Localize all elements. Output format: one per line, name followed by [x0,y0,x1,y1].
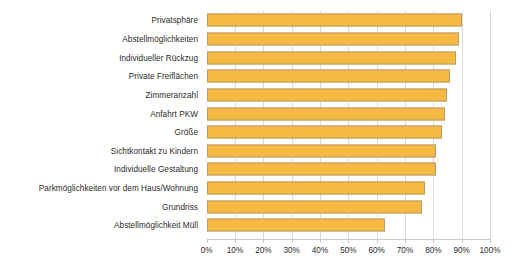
bar-category-label: Sichtkontakt zu Kindern [0,144,198,157]
x-axis-tick [207,239,208,243]
bar-category-label: Privatsphäre [0,14,198,27]
bar-category-label: Zimmeranzahl [0,88,198,101]
bar [207,219,385,232]
x-axis-tick-label: 60% [368,246,384,255]
bar-track [207,219,490,232]
bar [207,14,462,27]
bar-category-label: Anfahrt PKW [0,107,198,120]
bar [207,163,436,176]
x-axis-tick-label: 80% [425,246,441,255]
x-axis-tick [377,239,378,243]
x-axis-tick-label: 20% [255,246,271,255]
bar-category-label: Größe [0,126,198,139]
x-axis-tick [292,239,293,243]
x-axis-tick-label: 50% [340,246,356,255]
bar-row: Anfahrt PKW [0,104,523,123]
x-axis-tick-label: 40% [312,246,328,255]
x-axis-tick [348,239,349,243]
bar-row: Individuelle Gestaltung [0,160,523,179]
x-axis-tick [462,239,463,243]
bar-category-label: Abstellmöglichkeiten [0,32,198,45]
bar-row: Abstellmöglichkeit Müll [0,216,523,235]
bar-category-label: Individueller Rückzug [0,51,198,64]
x-axis-tick-label: 100% [480,246,501,255]
x-axis-tick-label: 30% [283,246,299,255]
bar-track [207,70,490,83]
bar [207,144,436,157]
bar-category-label: Private Freiflächen [0,70,198,83]
bar-rows: PrivatsphäreAbstellmöglichkeitenIndividu… [0,11,523,235]
bar [207,32,459,45]
bar [207,182,425,195]
bar-row: Abstellmöglichkeiten [0,30,523,49]
bar-track [207,200,490,213]
bar-row: Grundriss [0,197,523,216]
bar-row: Parkmöglichkeiten vor dem Haus/Wohnung [0,179,523,198]
bar-track [207,163,490,176]
bar-row: Sichtkontakt zu Kindern [0,141,523,160]
x-axis-tick-label: 70% [397,246,413,255]
bar [207,200,422,213]
x-axis-tick [490,239,491,243]
bar-category-label: Individuelle Gestaltung [0,163,198,176]
bar-category-label: Abstellmöglichkeit Müll [0,219,198,232]
bar-category-label: Grundriss [0,200,198,213]
x-axis-tick-label: 10% [227,246,243,255]
bar-row: Private Freiflächen [0,67,523,86]
x-axis-tick [405,239,406,243]
bar-category-label: Parkmöglichkeiten vor dem Haus/Wohnung [0,182,198,195]
bar-chart: 0%10%20%30%40%50%60%70%80%90%100% Privat… [0,0,523,271]
bar-track [207,14,490,27]
bar-track [207,88,490,101]
x-axis-line [207,239,491,240]
x-axis-tick-label: 0% [201,246,213,255]
bar-track [207,51,490,64]
x-axis-tick [235,239,236,243]
bar [207,107,445,120]
bar-track [207,126,490,139]
bar [207,51,456,64]
bar-track [207,107,490,120]
x-axis-tick [263,239,264,243]
x-axis-tick-label: 90% [453,246,469,255]
bar [207,70,451,83]
bar-row: Zimmeranzahl [0,86,523,105]
x-axis-tick [320,239,321,243]
bar-row: Individueller Rückzug [0,48,523,67]
bar [207,126,442,139]
bar-track [207,144,490,157]
bar-track [207,182,490,195]
bar-row: Privatsphäre [0,11,523,30]
bar-track [207,32,490,45]
bar-row: Größe [0,123,523,142]
bar [207,88,448,101]
x-axis-tick [433,239,434,243]
